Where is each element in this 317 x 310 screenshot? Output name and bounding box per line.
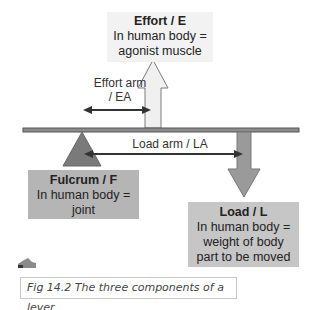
effort-title: Effort / E	[107, 14, 213, 29]
load-line-3: part to be moved	[188, 250, 299, 265]
fulcrum-line-1: In human body =	[28, 188, 139, 203]
fulcrum-line-2: joint	[28, 203, 139, 218]
load-arm-label: Load arm / LA	[120, 137, 220, 151]
load-line-1: In human body =	[188, 220, 299, 235]
load-arm-arrow	[84, 150, 243, 158]
effort-line-2: agonist muscle	[107, 44, 213, 59]
effort-arm-label-line-1: Effort arm	[80, 76, 160, 90]
fulcrum-box: Fulcrum / F In human body = joint	[28, 170, 139, 219]
decorative-icon-base	[18, 265, 23, 268]
effort-arm-label: Effort arm / EA	[80, 76, 160, 104]
figure-caption: Fig 14.2 The three components of a lever	[20, 277, 237, 299]
load-box: Load / L In human body = weight of body …	[188, 202, 299, 267]
load-title: Load / L	[188, 205, 299, 220]
fulcrum-title: Fulcrum / F	[28, 173, 139, 188]
effort-line-1: In human body =	[107, 29, 213, 44]
load-line-2: weight of body	[188, 235, 299, 250]
load-arrow	[228, 132, 260, 197]
effort-box: Effort / E In human body = agonist muscl…	[107, 12, 213, 62]
effort-arm-arrow	[83, 106, 151, 114]
effort-arm-label-line-2: / EA	[80, 90, 160, 104]
fulcrum-triangle	[63, 132, 101, 166]
lever-beam	[23, 128, 299, 132]
